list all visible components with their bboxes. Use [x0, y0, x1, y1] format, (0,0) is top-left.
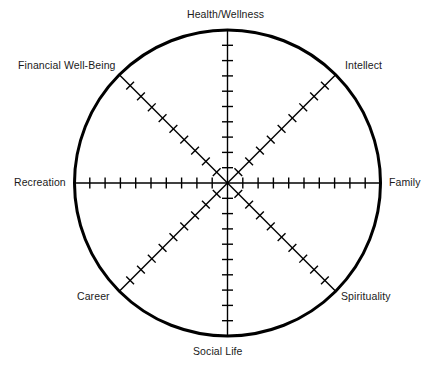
axis-label-financial-well-being: Financial Well-Being — [18, 60, 116, 72]
axis-label-career: Career — [77, 291, 110, 303]
wheel-of-life-diagram: Health/Wellness Intellect Family Spiritu… — [0, 0, 432, 366]
axis-label-social-life: Social Life — [193, 346, 243, 358]
axis-label-text: Family — [389, 176, 421, 188]
axis-label-text: Career — [77, 290, 110, 302]
axis-label-text: Social Life — [193, 345, 243, 357]
axis-label-text: Spirituality — [341, 290, 391, 302]
axis-label-recreation: Recreation — [14, 177, 66, 189]
axis-label-text: Intellect — [345, 59, 382, 71]
axis-label-family: Family — [389, 177, 421, 189]
axis-label-text: Health/Wellness — [187, 8, 264, 20]
axis-label-intellect: Intellect — [345, 60, 382, 72]
axis-label-health-wellness: Health/Wellness — [187, 9, 264, 21]
axis-label-text: Financial Well-Being — [18, 59, 116, 71]
axis-label-spirituality: Spirituality — [341, 291, 391, 303]
axis-label-text: Recreation — [14, 176, 66, 188]
